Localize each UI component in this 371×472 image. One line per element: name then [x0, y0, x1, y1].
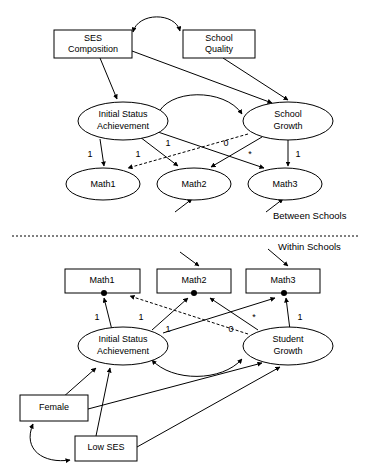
node-female[interactable]: Female — [20, 395, 88, 421]
loading-initial-math2-between — [140, 137, 178, 166]
path-quality-to-school-growth — [223, 58, 288, 100]
coef-within-growth-math3: 1 — [297, 312, 302, 322]
diagram-canvas: SES Composition School Quality Initial S… — [0, 0, 371, 472]
node-school-quality-line1: School — [205, 33, 233, 43]
node-math2-within[interactable]: Math2 — [157, 269, 231, 293]
node-school-quality[interactable]: School Quality — [183, 30, 255, 58]
node-student-growth[interactable]: Student Growth — [243, 327, 333, 365]
node-school-growth-line2: Growth — [273, 121, 302, 131]
node-math1-between-label: Math1 — [90, 179, 115, 189]
disturbance-math2-within — [180, 252, 199, 266]
within-schools-panel: Within Schools Math1 Math2 Math3 — [20, 241, 341, 461]
coef-within-initial-math3: 1 — [165, 324, 170, 334]
residual-dot-math3-within — [281, 290, 287, 296]
coef-between-growth-math2: * — [248, 149, 252, 159]
node-ses-composition[interactable]: SES Composition — [54, 30, 132, 58]
node-female-label: Female — [39, 402, 69, 412]
node-math3-within[interactable]: Math3 — [246, 269, 320, 293]
sem-diagram: SES Composition School Quality Initial S… — [0, 0, 371, 472]
residual-dot-math2-within — [191, 290, 197, 296]
node-initial-status-achievement-within[interactable]: Initial Status Achievement — [78, 327, 168, 365]
coef-between-initial-math2: 1 — [135, 149, 140, 159]
loading-growth-math2-within — [210, 298, 258, 330]
path-lowses-to-initial-status — [96, 368, 110, 436]
node-math1-within-label: Math1 — [89, 275, 114, 285]
node-school-quality-line2: Quality — [205, 44, 234, 54]
loading-initial-math1-within — [104, 298, 112, 330]
node-math2-between-label: Math2 — [181, 179, 206, 189]
node-initial-status-within-line2: Achievement — [97, 346, 150, 356]
node-low-ses[interactable]: Low SES — [75, 436, 137, 461]
residual-dot-math1-within — [101, 290, 107, 296]
loading-initial-math1-between — [100, 139, 104, 166]
coef-within-initial-math1: 1 — [94, 312, 99, 322]
path-ses-to-initial-status — [100, 58, 117, 99]
covariance-initial-growth-within — [152, 359, 242, 376]
node-school-growth-line1: School — [274, 109, 302, 119]
label-between-schools: Between Schools — [273, 210, 347, 221]
node-math1-between[interactable]: Math1 — [66, 168, 140, 200]
coef-between-growth-math1: 0 — [223, 138, 228, 148]
path-lowses-to-student-growth — [137, 367, 280, 447]
covariance-initial-growth-between — [157, 95, 242, 116]
node-math3-within-label: Math3 — [270, 275, 295, 285]
path-female-to-initial-status — [62, 368, 96, 398]
node-initial-status-achievement-between[interactable]: Initial Status Achievement — [78, 102, 168, 140]
node-low-ses-label: Low SES — [87, 442, 124, 452]
coef-between-initial-math1: 1 — [87, 149, 92, 159]
node-initial-status-between-line1: Initial Status — [98, 109, 148, 119]
node-initial-status-between-line2: Achievement — [97, 121, 150, 131]
node-math2-within-label: Math2 — [181, 275, 206, 285]
node-school-growth[interactable]: School Growth — [243, 102, 333, 140]
label-within-schools: Within Schools — [278, 241, 341, 252]
loading-growth-math2-between — [211, 137, 262, 167]
path-female-to-student-growth — [88, 363, 262, 409]
node-math1-within[interactable]: Math1 — [65, 269, 140, 293]
coef-within-growth-math1: 0 — [228, 324, 233, 334]
coef-between-initial-math3: 1 — [165, 138, 170, 148]
coef-between-growth-math3: 1 — [295, 149, 300, 159]
covariance-ses-quality — [133, 17, 180, 32]
coef-within-initial-math2: 1 — [138, 312, 143, 322]
loading-growth-math1-between — [128, 134, 248, 168]
covariance-female-lowses — [30, 424, 70, 461]
loading-initial-math3-within — [163, 298, 275, 333]
coef-within-growth-math2: * — [252, 312, 256, 322]
node-student-growth-line1: Student — [272, 334, 304, 344]
disturbance-math2-between — [175, 199, 192, 212]
node-math3-between-label: Math3 — [272, 179, 297, 189]
node-ses-composition-line1: SES — [84, 33, 102, 43]
between-schools-panel: SES Composition School Quality Initial S… — [54, 17, 347, 221]
node-student-growth-line2: Growth — [273, 346, 302, 356]
loading-growth-math3-within — [286, 298, 290, 330]
node-math3-between[interactable]: Math3 — [248, 168, 322, 200]
node-ses-composition-line2: Composition — [68, 44, 118, 54]
node-math2-between[interactable]: Math2 — [157, 168, 231, 200]
node-initial-status-within-line1: Initial Status — [98, 334, 148, 344]
disturbance-math3-within — [268, 249, 288, 266]
